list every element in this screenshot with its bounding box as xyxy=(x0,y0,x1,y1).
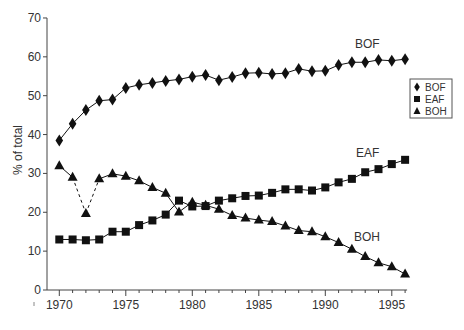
diamond-marker xyxy=(308,65,316,77)
series-labels: BOFEAFBOH xyxy=(354,37,380,244)
square-marker xyxy=(388,160,396,168)
series-bof xyxy=(56,53,409,146)
diamond-marker xyxy=(348,56,356,68)
diamond-marker xyxy=(82,104,90,116)
square-icon xyxy=(414,96,420,102)
triangle-marker xyxy=(307,226,317,235)
triangle-marker xyxy=(374,257,384,266)
diamond-marker xyxy=(228,71,236,83)
legend-label: EAF xyxy=(425,94,444,105)
label-bof: BOF xyxy=(355,37,380,51)
triangle-marker xyxy=(81,208,91,217)
triangle-marker xyxy=(347,244,357,253)
triangle-marker xyxy=(108,168,118,177)
diamond-marker xyxy=(295,63,303,75)
square-marker xyxy=(321,183,329,191)
diamond-marker xyxy=(109,94,117,106)
y-tick-label: 0 xyxy=(34,283,41,297)
legend-label: BOH xyxy=(425,106,447,117)
diamond-marker xyxy=(401,53,409,65)
square-marker xyxy=(122,228,130,236)
y-tick-label: 30 xyxy=(28,166,42,180)
x-tick-label: 1980 xyxy=(179,298,206,312)
square-marker xyxy=(228,194,236,202)
y-tick-label: 70 xyxy=(28,11,42,25)
legend: BOFEAFBOH xyxy=(410,79,452,118)
square-marker xyxy=(335,178,343,186)
square-marker xyxy=(175,197,183,205)
triangle-marker xyxy=(360,251,370,260)
diamond-marker xyxy=(375,54,383,66)
square-marker xyxy=(162,211,170,219)
x-tick-label: 1970 xyxy=(46,298,73,312)
diamond-marker xyxy=(388,55,396,67)
series-boh xyxy=(54,160,410,277)
diamond-marker xyxy=(268,68,276,80)
square-marker xyxy=(242,192,250,200)
diamond-marker xyxy=(135,79,143,91)
series-segment xyxy=(73,177,86,213)
diamond-marker xyxy=(162,75,170,87)
square-marker xyxy=(281,185,289,193)
square-marker xyxy=(148,216,156,224)
diamond-marker xyxy=(255,67,263,79)
line-chart: 010203040506070197019751980198519901995 … xyxy=(0,0,464,330)
x-tick-label: 1990 xyxy=(312,298,339,312)
y-tick-label: 20 xyxy=(28,205,42,219)
square-marker xyxy=(308,187,316,195)
square-marker xyxy=(401,156,409,164)
diamond-marker xyxy=(202,69,210,81)
diamond-marker xyxy=(95,95,103,107)
label-boh: BOH xyxy=(354,230,380,244)
diamond-marker xyxy=(335,59,343,71)
y-tick-label: 40 xyxy=(28,128,42,142)
square-marker xyxy=(295,185,303,193)
diamond-marker xyxy=(215,74,223,86)
square-marker xyxy=(361,168,369,176)
triangle-marker xyxy=(68,172,78,181)
square-marker xyxy=(69,235,77,243)
diamond-marker xyxy=(242,67,250,79)
x-tick-label: 1985 xyxy=(245,298,272,312)
square-marker xyxy=(95,235,103,243)
diamond-marker xyxy=(122,82,130,94)
y-tick-label: 50 xyxy=(28,89,42,103)
square-marker xyxy=(348,175,356,183)
legend-label: BOF xyxy=(425,82,446,93)
square-marker xyxy=(109,228,117,236)
diamond-marker xyxy=(322,65,330,77)
square-marker xyxy=(82,236,90,244)
x-tick-label: 1995 xyxy=(378,298,405,312)
axes: 010203040506070197019751980198519901995 xyxy=(28,11,407,312)
y-axis-label: % of total xyxy=(11,125,25,175)
diamond-marker xyxy=(189,71,197,83)
square-marker xyxy=(375,165,383,173)
diamond-marker xyxy=(149,77,157,89)
diamond-marker xyxy=(175,73,183,85)
triangle-marker xyxy=(400,269,410,278)
square-marker xyxy=(55,235,63,243)
square-marker xyxy=(268,189,276,197)
diamond-marker xyxy=(361,56,369,68)
x-tick-label: 1975 xyxy=(112,298,139,312)
series-segment xyxy=(86,179,99,214)
triangle-marker xyxy=(227,210,237,219)
diamond-marker xyxy=(69,118,77,130)
diamond-marker xyxy=(282,67,290,79)
triangle-marker xyxy=(147,182,157,191)
square-marker xyxy=(255,192,263,200)
y-tick-label: 60 xyxy=(28,50,42,64)
square-marker xyxy=(135,221,143,229)
y-tick-label: 10 xyxy=(28,244,42,258)
triangle-marker xyxy=(54,160,64,169)
triangle-marker xyxy=(187,197,197,206)
square-marker xyxy=(215,197,223,205)
diamond-marker xyxy=(56,134,64,146)
triangle-marker xyxy=(267,216,277,225)
label-eaf: EAF xyxy=(356,146,379,160)
